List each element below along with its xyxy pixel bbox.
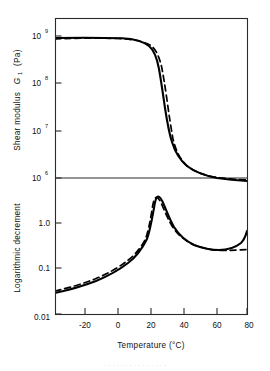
tick-label-1e6-base: 10 <box>32 174 42 183</box>
tick-label-1e7-base: 10 <box>32 127 42 136</box>
xtick-label-40: 40 <box>179 321 189 330</box>
lower-y-tick-labels: 1.0 0.1 0.01 <box>34 219 50 322</box>
tick-label-1p0: 1.0 <box>39 219 51 228</box>
upper-y-axis-title-text: Shear modulus <box>13 92 22 151</box>
tick-label-1e6-exp: 6 <box>45 170 48 176</box>
tick-label-1e8-exp: 8 <box>45 75 48 81</box>
plot-border <box>56 19 248 315</box>
upper-y-axis-title-group: Shear modulus G 1 (Pa) <box>13 49 24 150</box>
svg-text:Shear modulus G 1: Shear modulus G 1 (Pa) <box>13 49 24 150</box>
xtick-label-0: 0 <box>116 321 121 330</box>
plot-frame <box>56 19 248 315</box>
xtick-label-60: 60 <box>212 321 222 330</box>
tick-label-1e8-base: 10 <box>32 79 42 88</box>
x-axis-title: Temperature (°C) <box>117 341 185 350</box>
chart-svg: 10 9 10 8 10 7 10 6 1.0 0.1 0.01 -20 0 2… <box>0 0 270 371</box>
upper-y-axis-title-subscript: 1 <box>17 72 23 75</box>
xtick-label-20: 20 <box>146 321 156 330</box>
xtick-label--20: -20 <box>79 321 91 330</box>
tick-label-0p1: 0.1 <box>39 264 51 273</box>
upper-y-tick-labels: 10 9 10 8 10 7 10 6 <box>32 28 48 183</box>
x-axis-tick-labels: -20 0 20 40 60 80 <box>79 321 254 330</box>
upper-y-axis-title-symbol: G <box>13 77 22 84</box>
tick-label-1e9-exp: 9 <box>45 28 48 34</box>
tick-label-1e9-base: 10 <box>32 32 42 41</box>
figure-container: 10 9 10 8 10 7 10 6 1.0 0.1 0.01 -20 0 2… <box>0 0 270 371</box>
upper-y-axis-title-units: (Pa) <box>13 49 22 66</box>
xtick-label-80: 80 <box>244 321 254 330</box>
lower-y-axis-title: Logarithmic decrement <box>13 203 22 293</box>
cropped-caption-ghost: · · · · · · · · · · · · · · · <box>104 362 166 369</box>
tick-label-1e7-exp: 7 <box>45 123 48 129</box>
tick-label-0p01: 0.01 <box>34 313 50 322</box>
